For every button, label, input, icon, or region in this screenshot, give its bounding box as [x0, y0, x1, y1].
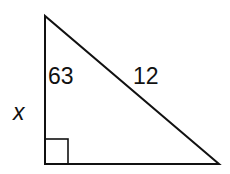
angle-label: 63	[48, 63, 74, 89]
hypotenuse-label: 12	[133, 63, 159, 89]
triangle-outline	[45, 16, 219, 164]
triangle-diagram: 63 12 x	[0, 0, 230, 174]
right-angle-marker	[45, 139, 68, 164]
side-x-label: x	[12, 99, 26, 125]
